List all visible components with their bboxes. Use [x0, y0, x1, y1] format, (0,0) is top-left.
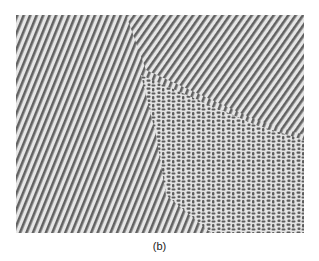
- figure-caption: (b): [0, 240, 319, 252]
- micrograph-image: [16, 15, 304, 233]
